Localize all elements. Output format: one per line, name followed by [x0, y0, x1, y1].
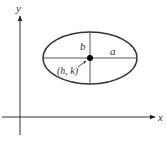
center-label: (h, k)	[57, 65, 79, 77]
center-pointer-arrow	[78, 61, 86, 67]
ellipse-diagram: y x b a (h, k)	[0, 0, 167, 149]
semi-major-label: a	[110, 45, 116, 57]
semi-minor-label: b	[80, 40, 86, 52]
center-point	[87, 55, 93, 61]
y-axis-label: y	[15, 2, 21, 14]
x-axis-label: x	[157, 111, 163, 123]
